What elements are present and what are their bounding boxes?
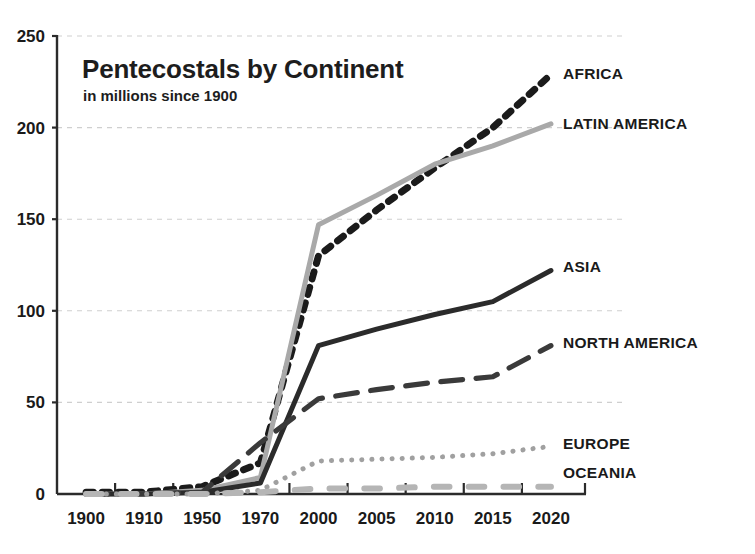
chart-canvas: 050100150200250 190019101950197020002005… [0,0,755,554]
series-label-asia: ASIA [563,258,601,275]
y-axis-tick-label: 0 [36,485,45,504]
series-line-north-america [86,346,551,494]
x-axis-tick-label: 2005 [358,509,396,528]
y-axis-tick-label: 150 [17,210,45,229]
x-axis-tick-label: 2020 [532,509,570,528]
x-axis-tick-label: 1950 [183,509,221,528]
y-axis-tick-label: 50 [26,393,45,412]
x-axis-tick-label: 2000 [300,509,338,528]
series-label-group: AFRICALATIN AMERICAASIANORTH AMERICAEURO… [563,65,698,480]
y-axis-tick-labels: 050100150200250 [17,27,45,504]
x-axis-tick-labels: 190019101950197020002005201020152020 [67,509,570,528]
series-group [86,74,551,494]
series-label-africa: AFRICA [563,65,623,82]
x-axis-tick-label: 2010 [416,509,454,528]
series-label-oceania: OCEANIA [563,464,637,481]
series-label-europe: EUROPE [563,435,630,452]
x-axis-tick-label: 1970 [241,509,279,528]
page-title: Pentecostals by Continent [82,54,404,84]
y-axis-tick-label: 100 [17,302,45,321]
pentecostals-by-continent-chart: 050100150200250 190019101950197020002005… [0,0,755,554]
y-axis-tick-label: 200 [17,119,45,138]
series-line-africa [86,74,551,492]
series-line-asia [86,271,551,495]
chart-subtitle: in millions since 1900 [83,87,237,104]
x-axis-tick-label: 1900 [67,509,105,528]
x-axis-tick-label: 2015 [474,509,512,528]
y-axis-tick-label: 250 [17,27,45,46]
series-line-latin-america [86,124,551,494]
x-axis-tick-label: 1910 [125,509,163,528]
series-label-latin-america: LATIN AMERICA [563,115,687,132]
series-label-north-america: NORTH AMERICA [563,334,698,351]
